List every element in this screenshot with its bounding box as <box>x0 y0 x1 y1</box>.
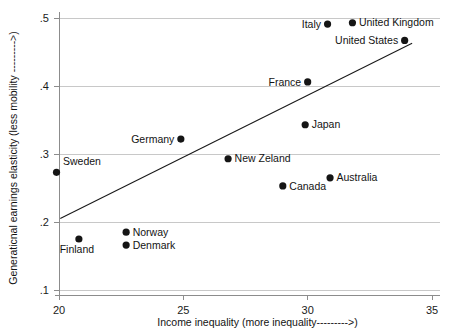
x-tick-label: 30 <box>302 304 314 316</box>
scatter-plot-figure: SwedenFinlandNorwayDenmarkGermanyNew Zel… <box>0 0 451 332</box>
data-point-marker <box>279 182 286 189</box>
data-point-label: Italy <box>302 18 322 30</box>
data-point-label: Germany <box>131 133 175 145</box>
data-point-marker <box>349 19 356 26</box>
data-point-label: Australia <box>337 171 378 183</box>
regression-line <box>60 43 412 218</box>
y-axis-title: Generaticnal earnings elasticity (less m… <box>7 31 19 285</box>
data-point-label: United Kingdom <box>359 16 434 28</box>
data-point-marker <box>177 135 184 142</box>
data-point-marker <box>326 174 333 181</box>
x-tick-label: 35 <box>426 304 438 316</box>
plot-canvas: SwedenFinlandNorwayDenmarkGermanyNew Zel… <box>0 0 451 332</box>
data-point-label: Sweden <box>63 155 101 167</box>
data-point-marker <box>123 242 130 249</box>
data-point-marker <box>75 235 82 242</box>
data-point-marker <box>123 229 130 236</box>
y-tick-label: .2 <box>40 216 49 228</box>
data-point-label: New Zeland <box>235 152 291 164</box>
data-point-marker <box>324 21 331 28</box>
trend-line <box>60 43 412 218</box>
y-tick-label: .1 <box>40 284 49 296</box>
data-point-label: Japan <box>312 118 341 130</box>
data-point-marker <box>224 155 231 162</box>
data-point-marker <box>302 121 309 128</box>
point-labels: SwedenFinlandNorwayDenmarkGermanyNew Zel… <box>60 16 434 255</box>
data-point-label: Denmark <box>133 239 176 251</box>
data-point-marker <box>53 169 60 176</box>
data-point-label: Canada <box>289 180 326 192</box>
y-tick-label: .3 <box>40 148 49 160</box>
data-point-label: Finland <box>60 243 95 255</box>
x-tick-label: 25 <box>177 304 189 316</box>
data-point-label: France <box>268 76 301 88</box>
data-point-label: Norway <box>133 226 169 238</box>
y-tick-label: .4 <box>40 80 49 92</box>
y-tick-label: .5 <box>40 12 49 24</box>
x-tick-label: 20 <box>53 304 65 316</box>
data-point-label: United States <box>335 34 398 46</box>
data-point-marker <box>401 37 408 44</box>
data-point-marker <box>304 78 311 85</box>
x-axis-title: Income inequality (more inequality------… <box>157 316 357 328</box>
